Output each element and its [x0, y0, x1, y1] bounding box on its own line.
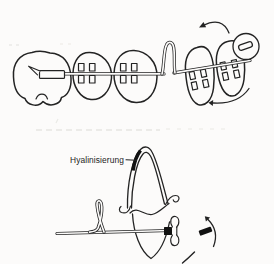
- wire-cross-section-callout: [233, 34, 259, 60]
- cervical-line: [130, 204, 169, 215]
- molar-buccal-tube: [40, 71, 65, 79]
- lower-diagram: Hyalinisierung: [57, 147, 216, 263]
- wire-end-marker: [164, 227, 172, 235]
- vertical-loop-upper: [162, 42, 175, 74]
- rotation-arrow-bottom: [209, 89, 250, 107]
- force-vector: [198, 226, 212, 236]
- scanned-orthodontic-figure: Hyalinisierung: [0, 0, 274, 264]
- hyalinization-label: Hyalinisierung: [70, 155, 124, 165]
- bone-crest-curl-left: [119, 206, 130, 213]
- scan-artifacts: [9, 44, 232, 130]
- upper-diagram: [13, 22, 259, 106]
- root-outline-outer: [127, 147, 168, 208]
- spring-wire-lower: [57, 231, 170, 234]
- rotation-arrow-top: [199, 22, 229, 33]
- twin-bracket-canine: [189, 69, 209, 90]
- stray-arc-stroke: [183, 252, 195, 263]
- molar-cusp-groove: [36, 94, 48, 99]
- molar-hook: [29, 66, 41, 75]
- crown-outline: [133, 214, 170, 259]
- vertical-loop-lower: [90, 201, 105, 232]
- figure-canvas: Hyalinisierung: [0, 0, 274, 264]
